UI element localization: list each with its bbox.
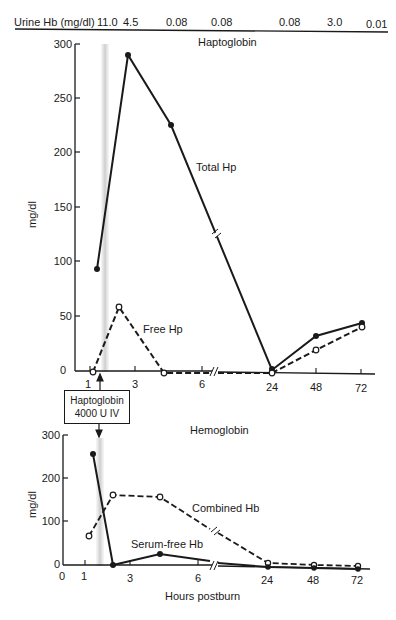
figure-canvas: Urine Hb (mg/dl) 11.0 4.5 0.08 0.08 0.08…	[0, 0, 396, 620]
series-total-hp	[97, 55, 362, 370]
infusion-band	[96, 438, 104, 566]
hemoglobin-chart: Hemoglobin mg/dl 300 200 100 0 0 1 3 6 2…	[26, 424, 370, 602]
series-free-hp	[93, 307, 210, 373]
urine-value: 0.01	[366, 18, 387, 30]
total-hp-markers	[94, 52, 365, 372]
series-label-total-hp: Total Hp	[196, 161, 236, 173]
annotation-line-1: Haptoglobin	[70, 394, 123, 407]
y-tick: 250	[54, 92, 72, 104]
series-label-combined-hb: Combined Hb	[192, 502, 259, 514]
x-tick: 0	[59, 570, 65, 582]
y-tick: 50	[60, 310, 72, 322]
urine-value: 11.0	[97, 16, 118, 28]
haptoglobin-dose-annotation: Haptoglobin 4000 U IV	[64, 390, 130, 424]
x-tick: 48	[310, 381, 322, 393]
x-tick: 72	[351, 574, 363, 586]
y-tick: 300	[42, 429, 60, 441]
x-tick: 6	[195, 572, 201, 584]
chart-title: Hemoglobin	[190, 424, 249, 436]
urine-value: 0.08	[279, 16, 300, 28]
urine-value: 4.5	[123, 16, 138, 28]
y-axis-label: mg/dl	[26, 491, 38, 518]
x-tick: 3	[127, 572, 133, 584]
y-tick: 0	[60, 364, 66, 376]
y-axis-label: mg/dl	[26, 201, 38, 228]
x-tick: 3	[132, 378, 138, 390]
x-tick: 1	[85, 378, 91, 390]
series-label-free-hp: Free Hp	[143, 323, 183, 335]
y-tick: 150	[54, 201, 72, 213]
y-tick: 100	[54, 255, 72, 267]
x-tick: 1	[81, 570, 87, 582]
header-rule	[15, 29, 388, 32]
urine-value: 0.08	[166, 16, 187, 28]
free-hp-markers	[90, 304, 365, 376]
y-tick: 300	[54, 38, 72, 50]
urine-hb-header: Urine Hb (mg/dl) 11.0 4.5 0.08 0.08 0.08…	[14, 16, 388, 32]
urine-hb-label: Urine Hb (mg/dl)	[14, 16, 95, 28]
haptoglobin-chart: Haptoglobin mg/dl 300 250 200 150 100 50…	[26, 36, 375, 394]
annotation-line-2: 4000 U IV	[75, 407, 119, 420]
urine-value: 3.0	[327, 16, 342, 28]
y-tick: 200	[42, 472, 60, 484]
chart-title: Haptoglobin	[198, 36, 257, 48]
x-tick: 24	[261, 574, 273, 586]
x-tick: 72	[355, 382, 367, 394]
x-tick: 24	[266, 381, 278, 393]
y-tick: 0	[54, 558, 60, 570]
series-label-serum-free-hb: Serum-free Hb	[131, 538, 203, 550]
x-tick: 48	[307, 574, 319, 586]
urine-value: 0.08	[211, 16, 232, 28]
y-tick: 100	[42, 515, 60, 527]
y-tick: 200	[54, 146, 72, 158]
x-tick: 6	[199, 378, 205, 390]
x-axis-label: Hours postburn	[165, 590, 240, 602]
